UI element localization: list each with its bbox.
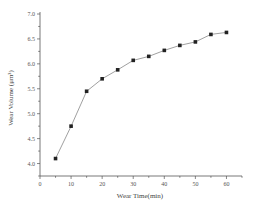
data-point-marker (147, 55, 151, 59)
x-tick-label: 10 (68, 181, 74, 187)
data-point-marker (131, 59, 135, 63)
y-tick-label: 6.5 (28, 36, 36, 42)
y-tick-label: 4.0 (28, 161, 36, 167)
x-tick-label: 60 (223, 181, 229, 187)
x-tick-label: 0 (39, 181, 42, 187)
wear-volume-chart: 01020304050604.04.55.05.56.06.57.0 Wear … (0, 0, 255, 209)
data-point-marker (116, 68, 120, 72)
data-point-marker (100, 77, 104, 81)
y-tick-label: 5.0 (28, 111, 36, 117)
data-point-marker (194, 40, 198, 44)
x-tick-label: 40 (161, 181, 167, 187)
y-tick-label: 4.5 (28, 136, 36, 142)
y-tick-label: 6.0 (28, 61, 36, 67)
x-tick-label: 50 (192, 181, 198, 187)
data-point-marker (163, 49, 167, 53)
x-tick-label: 20 (99, 181, 105, 187)
y-axis-title: Wear Volume (μm³) (7, 70, 15, 126)
y-tick-label: 5.5 (28, 86, 36, 92)
data-point-marker (54, 157, 58, 161)
data-series (54, 31, 229, 161)
y-tick-label: 7.0 (28, 11, 36, 17)
data-point-marker (85, 89, 89, 93)
data-point-marker (178, 44, 182, 48)
data-point-marker (69, 124, 73, 128)
series-line (56, 32, 227, 158)
x-tick-label: 30 (130, 181, 136, 187)
data-point-marker (209, 33, 213, 37)
axes: 01020304050604.04.55.05.56.06.57.0 (28, 11, 243, 187)
x-axis-title: Wear Time(min) (117, 192, 164, 200)
data-point-marker (225, 31, 229, 35)
